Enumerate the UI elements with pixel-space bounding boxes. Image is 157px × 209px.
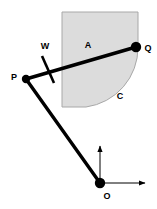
joint-p bbox=[22, 75, 30, 83]
point-o-label: O bbox=[103, 191, 110, 201]
region-a-label: A bbox=[85, 40, 92, 50]
w-label: W bbox=[41, 41, 50, 51]
joint-o bbox=[95, 178, 105, 188]
diagram-canvas: A C W P Q O bbox=[0, 0, 157, 209]
point-p-label: P bbox=[11, 72, 17, 82]
joint-q bbox=[131, 42, 141, 52]
figure-root: A C W P Q O bbox=[0, 0, 157, 209]
point-q-label: Q bbox=[144, 43, 151, 53]
arc-c-label: C bbox=[117, 91, 124, 101]
region-a-shape bbox=[62, 12, 138, 107]
w-tick-mark bbox=[42, 56, 54, 83]
